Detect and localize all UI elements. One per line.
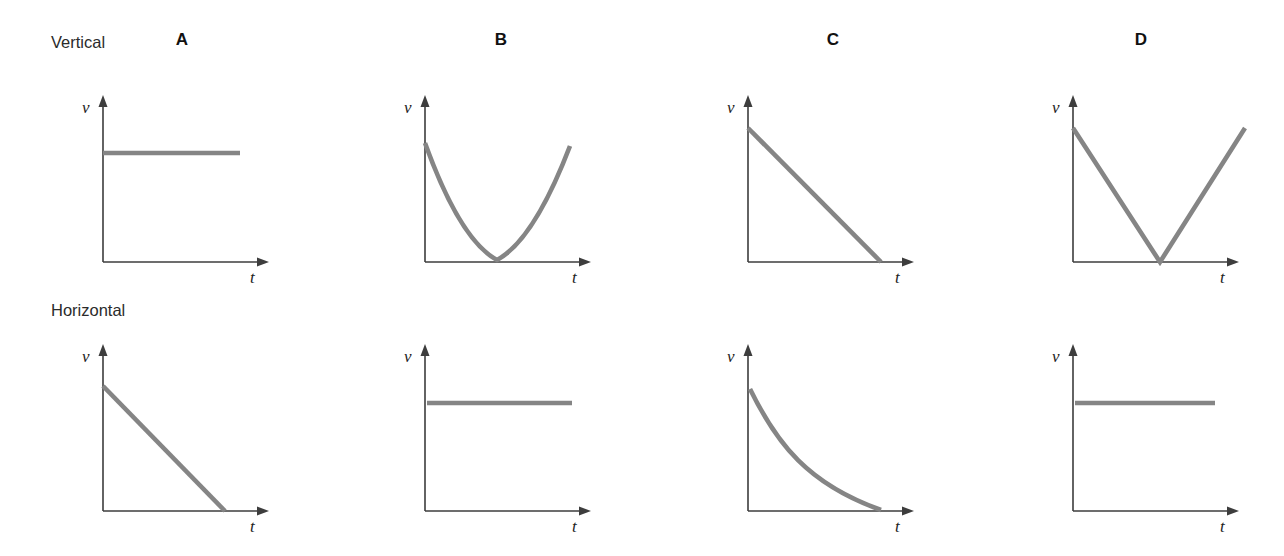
- plot-vertical-a: v t: [60, 90, 300, 290]
- plot-vertical-d: v t: [1030, 90, 1270, 290]
- y-axis-arrow-icon: [421, 95, 430, 107]
- x-axis-arrow-icon: [902, 258, 914, 267]
- y-axis-label: v: [82, 98, 90, 117]
- x-axis-label: t: [572, 268, 578, 287]
- y-axis-label: v: [1052, 98, 1060, 117]
- y-axis-arrow-icon: [99, 95, 108, 107]
- x-axis-label: t: [250, 517, 256, 536]
- plot-horizontal-b: v t: [382, 339, 622, 539]
- y-axis-label: v: [404, 98, 412, 117]
- axes-horizontal-b: [421, 344, 592, 516]
- data-curve: [103, 386, 225, 511]
- x-axis-arrow-icon: [1227, 258, 1239, 267]
- column-header-c: C: [813, 31, 853, 48]
- column-header-b: B: [481, 31, 521, 48]
- plot-horizontal-a: v t: [60, 339, 300, 539]
- plot-vertical-b: v t: [382, 90, 622, 290]
- x-axis-label: t: [1220, 517, 1226, 536]
- y-axis-arrow-icon: [744, 95, 753, 107]
- axes-horizontal-c: [744, 344, 915, 516]
- y-axis-arrow-icon: [744, 344, 753, 356]
- x-axis-arrow-icon: [579, 258, 591, 267]
- column-header-d: D: [1121, 31, 1161, 48]
- x-axis-arrow-icon: [902, 507, 914, 516]
- plot-horizontal-c: v t: [705, 339, 945, 539]
- x-axis-arrow-icon: [579, 507, 591, 516]
- x-axis-arrow-icon: [257, 507, 269, 516]
- axes-vertical-b: [421, 95, 592, 267]
- y-axis-label: v: [1052, 347, 1060, 366]
- row-label-horizontal: Horizontal: [51, 302, 125, 319]
- x-axis-label: t: [572, 517, 578, 536]
- data-curve: [1073, 128, 1245, 262]
- y-axis-arrow-icon: [1069, 95, 1078, 107]
- x-axis-label: t: [250, 268, 256, 287]
- data-curve: [748, 128, 881, 262]
- y-axis-arrow-icon: [421, 344, 430, 356]
- y-axis-label: v: [727, 98, 735, 117]
- axes-vertical-a: [99, 95, 270, 267]
- row-label-vertical: Vertical: [51, 34, 105, 51]
- x-axis-label: t: [895, 517, 901, 536]
- x-axis-label: t: [1220, 268, 1226, 287]
- axes-horizontal-a: [99, 344, 270, 516]
- y-axis-arrow-icon: [1069, 344, 1078, 356]
- plot-vertical-c: v t: [705, 90, 945, 290]
- y-axis-arrow-icon: [99, 344, 108, 356]
- y-axis-label: v: [404, 347, 412, 366]
- data-curve: [750, 389, 881, 510]
- column-header-a: A: [162, 31, 202, 48]
- axes-vertical-c: [744, 95, 915, 267]
- figure-canvas: A B C D Vertical Horizontal v t: [0, 0, 1284, 556]
- plot-horizontal-d: v t: [1030, 339, 1270, 539]
- axes-horizontal-d: [1069, 344, 1240, 516]
- x-axis-arrow-icon: [257, 258, 269, 267]
- x-axis-arrow-icon: [1227, 507, 1239, 516]
- data-curve: [425, 143, 570, 260]
- y-axis-label: v: [727, 347, 735, 366]
- x-axis-label: t: [895, 268, 901, 287]
- y-axis-label: v: [82, 347, 90, 366]
